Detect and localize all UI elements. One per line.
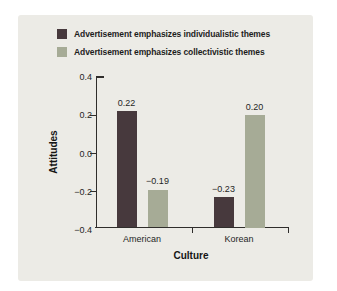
bar-value-label: −0.23 bbox=[204, 184, 244, 195]
y-tick bbox=[90, 191, 96, 192]
bar bbox=[148, 190, 168, 228]
x-tick bbox=[192, 228, 193, 233]
bar-value-label: 0.22 bbox=[107, 98, 147, 109]
y-tick-label: −0.2 bbox=[60, 187, 92, 197]
bar-value-label: −0.19 bbox=[138, 176, 178, 187]
y-tick-label: 0.4 bbox=[60, 72, 92, 82]
y-axis-title: Attitudes bbox=[48, 130, 59, 173]
category-label: Korean bbox=[199, 234, 279, 244]
y-tick bbox=[96, 76, 104, 77]
legend-item: Advertisement emphasizes collectivistic … bbox=[57, 46, 270, 58]
y-tick bbox=[90, 115, 96, 116]
y-tick-label: −0.4 bbox=[60, 225, 92, 235]
y-tick bbox=[90, 153, 96, 154]
legend-item-label: Advertisement emphasizes individualistic… bbox=[74, 29, 270, 39]
legend-item: Advertisement emphasizes individualistic… bbox=[57, 28, 270, 40]
x-axis-title: Culture bbox=[151, 250, 231, 261]
legend-swatch bbox=[57, 47, 67, 57]
bar-value-label: 0.20 bbox=[235, 102, 275, 113]
y-tick-label: 0.0 bbox=[60, 149, 92, 159]
y-tick-label: 0.2 bbox=[60, 110, 92, 120]
figure: Advertisement emphasizes individualistic… bbox=[0, 0, 337, 291]
x-tick bbox=[288, 228, 289, 233]
bar bbox=[214, 197, 234, 227]
legend: Advertisement emphasizes individualistic… bbox=[57, 28, 270, 64]
legend-swatch bbox=[57, 29, 67, 39]
bar bbox=[117, 111, 137, 227]
bar bbox=[245, 115, 265, 227]
category-label: American bbox=[102, 234, 182, 244]
legend-item-label: Advertisement emphasizes collectivistic … bbox=[74, 47, 265, 57]
